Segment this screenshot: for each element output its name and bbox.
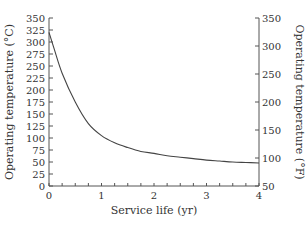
y-tick-label: 350 (26, 13, 45, 24)
y-tick-label-right: 350 (262, 13, 281, 24)
x-tick-label: 3 (203, 190, 209, 201)
line-chart: 0255075100125150175200225250275300325350… (0, 0, 307, 230)
y-tick-label: 25 (32, 169, 45, 180)
y-tick-label-right: 50 (262, 181, 275, 192)
x-tick-label: 1 (98, 190, 104, 201)
y-tick-label: 50 (32, 157, 45, 168)
y-tick-label: 175 (26, 97, 45, 108)
y-tick-label: 0 (39, 181, 45, 192)
y-tick-label: 275 (26, 49, 45, 60)
y-tick-label: 150 (26, 109, 45, 120)
y-tick-label: 125 (26, 121, 45, 132)
chart: 0255075100125150175200225250275300325350… (0, 0, 307, 230)
y-tick-label-right: 300 (262, 41, 281, 52)
y-tick-label-right: 100 (262, 153, 281, 164)
y-axis-label-left: Operating temperature (°C) (3, 24, 16, 180)
y-tick-label: 250 (26, 61, 45, 72)
y-tick-label: 200 (26, 85, 45, 96)
x-tick-label: 0 (46, 190, 52, 201)
y-tick-label: 225 (26, 73, 45, 84)
y-tick-label: 325 (26, 25, 45, 36)
y-tick-label-right: 250 (262, 69, 281, 80)
y-tick-label-right: 150 (262, 125, 281, 136)
x-axis-label: Service life (yr) (111, 204, 197, 217)
y-tick-label: 75 (32, 145, 45, 156)
y-tick-label: 300 (26, 37, 45, 48)
y-tick-label-right: 200 (262, 97, 281, 108)
y-tick-label: 100 (26, 133, 45, 144)
x-tick-label: 2 (151, 190, 157, 201)
y-axis-label-right: Operating temperature (°F) (293, 24, 306, 179)
axes: 0255075100125150175200225250275300325350… (26, 13, 281, 202)
x-tick-label: 4 (256, 190, 262, 201)
data-line (49, 32, 259, 163)
